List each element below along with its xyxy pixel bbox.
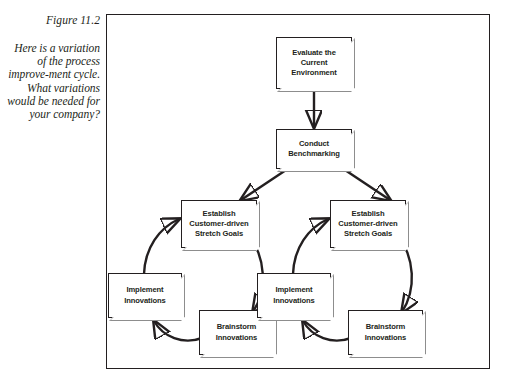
figure-page: Figure 11.2 Here is a variation of the p… bbox=[0, 0, 505, 392]
node-label: Evaluate the Current Environment bbox=[277, 48, 351, 79]
edge-brainstorm-to-implement-right bbox=[303, 321, 351, 341]
node-label: Brainstorm Innovations bbox=[349, 322, 422, 342]
node-implement-innovations-left[interactable]: Implement Innovations bbox=[108, 273, 182, 318]
node-label: Establish Customer-driven Stretch Goals bbox=[182, 209, 256, 240]
edge-benchmark-to-goals-left bbox=[241, 168, 289, 200]
node-brainstorm-innovations-right[interactable]: Brainstorm Innovations bbox=[348, 310, 423, 355]
edge-implement-to-goals-right bbox=[293, 219, 328, 274]
node-label: Conduct Benchmarking bbox=[277, 139, 351, 159]
node-label: Brainstorm Innovations bbox=[200, 322, 273, 342]
node-implement-innovations-right[interactable]: Implement Innovations bbox=[257, 273, 331, 318]
node-conduct-benchmarking[interactable]: Conduct Benchmarking bbox=[276, 129, 352, 169]
node-label: Implement Innovations bbox=[258, 285, 330, 305]
figure-caption: Figure 11.2 Here is a variation of the p… bbox=[6, 13, 100, 121]
node-label: Establish Customer-driven Stretch Goals bbox=[331, 209, 405, 240]
node-evaluate-current-environment[interactable]: Evaluate the Current Environment bbox=[276, 37, 352, 89]
node-establish-stretch-goals-left[interactable]: Establish Customer-driven Stretch Goals bbox=[181, 200, 257, 248]
node-establish-stretch-goals-right[interactable]: Establish Customer-driven Stretch Goals bbox=[330, 200, 406, 248]
edge-brainstorm-to-implement-left bbox=[154, 321, 202, 341]
figure-number-label: Figure 11.2 bbox=[6, 13, 100, 27]
figure-caption-text: Here is a variation of the process impro… bbox=[6, 42, 100, 121]
edge-benchmark-to-goals-right bbox=[342, 168, 390, 200]
node-label: Implement Innovations bbox=[109, 285, 181, 305]
edge-implement-to-goals-left bbox=[144, 219, 179, 274]
diagram-frame: Evaluate the Current Environment Conduct… bbox=[106, 14, 490, 369]
